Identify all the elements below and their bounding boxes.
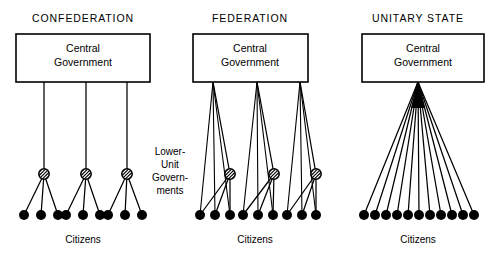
unit-to-citizen-edge-1-2 — [86, 174, 100, 215]
lower-unit-node-hatching — [218, 169, 242, 179]
central-government-label-line1-unitary-state: Central — [406, 42, 440, 54]
central-to-citizen-edge-0-0 — [200, 82, 213, 215]
lower-unit-governments-label-line2: Unit — [161, 159, 179, 170]
citizen-dot-unitary-state-3 — [392, 210, 402, 220]
citizen-dot-confederation-7 — [120, 210, 130, 220]
central-to-citizen-edge-1-0 — [243, 82, 257, 215]
lower-unit-node-federation-1 — [262, 169, 286, 179]
central-to-citizen-edge-2-2 — [300, 82, 316, 215]
citizen-dot-federation-1 — [210, 210, 220, 220]
panel-heading-confederation: CONFEDERATION — [32, 12, 134, 24]
central-government-label-line2-unitary-state: Government — [394, 56, 452, 68]
citizen-dot-confederation-0 — [19, 210, 29, 220]
lower-unit-governments-label-line3: Govern- — [152, 172, 188, 183]
citizen-dot-unitary-state-2 — [381, 210, 391, 220]
central-to-citizen-edge-1-1 — [257, 82, 258, 215]
citizen-dot-federation-4 — [253, 210, 263, 220]
central-government-label-line2-confederation: Government — [54, 56, 112, 68]
lower-unit-node-hatching — [262, 169, 286, 179]
citizen-dot-unitary-state-8 — [447, 210, 457, 220]
citizen-dot-federation-0 — [195, 210, 205, 220]
citizen-dot-unitary-state-10 — [469, 210, 479, 220]
lower-unit-node-hatching — [304, 169, 328, 179]
lower-unit-node-hatching — [74, 169, 98, 179]
unit-to-citizen-edge-1-2 — [273, 174, 274, 215]
citizen-dot-confederation-4 — [78, 210, 88, 220]
unit-to-citizen-edge-2-2 — [127, 174, 142, 215]
unit-to-citizen-edge-2-0 — [108, 174, 127, 215]
citizen-dot-confederation-1 — [36, 210, 46, 220]
central-to-citizen-edge-1-2 — [257, 82, 273, 215]
unit-to-citizen-edge-1-1 — [258, 174, 274, 215]
citizen-dot-federation-6 — [282, 210, 292, 220]
central-government-label-line1-confederation: Central — [66, 42, 100, 54]
unit-to-citizen-edge-2-1 — [125, 174, 127, 215]
citizen-dot-federation-5 — [268, 210, 278, 220]
panel-heading-unitary-state: UNITARY STATE — [372, 12, 464, 24]
central-government-label-line2-federation: Government — [221, 56, 279, 68]
lower-unit-node-confederation-2 — [115, 169, 139, 179]
unit-to-citizen-edge-0-2 — [44, 174, 58, 215]
citizen-dot-unitary-state-9 — [458, 210, 468, 220]
central-government-label-line1-federation: Central — [233, 42, 267, 54]
lower-unit-governments-label-line4: ments — [156, 185, 183, 196]
lower-unit-node-federation-2 — [304, 169, 328, 179]
citizen-dot-unitary-state-1 — [370, 210, 380, 220]
citizen-dot-unitary-state-0 — [359, 210, 369, 220]
lower-unit-node-confederation-0 — [32, 169, 56, 179]
citizens-label-federation: Citizens — [237, 234, 273, 245]
central-to-citizen-edge-0-2 — [213, 82, 230, 215]
lower-unit-node-federation-0 — [218, 169, 242, 179]
citizen-dot-confederation-3 — [61, 210, 71, 220]
central-to-unit-edge-2 — [300, 82, 316, 174]
citizen-dot-federation-7 — [297, 210, 307, 220]
government-forms-diagram: CONFEDERATIONCentralGovernmentCitizensFE… — [0, 0, 502, 254]
edges-layer — [24, 82, 474, 215]
lower-unit-node-confederation-1 — [74, 169, 98, 179]
lower-unit-node-hatching — [115, 169, 139, 179]
lower-unit-governments-label-line1: Lower- — [155, 146, 186, 157]
central-to-citizen-edge-9 — [418, 82, 463, 215]
citizen-dot-unitary-state-6 — [425, 210, 435, 220]
central-to-citizen-edge-1 — [375, 82, 418, 215]
lower-unit-node-hatching — [32, 169, 56, 179]
citizen-dot-unitary-state-4 — [403, 210, 413, 220]
central-to-citizen-edge-10 — [418, 82, 474, 215]
citizen-dot-federation-2 — [225, 210, 235, 220]
central-to-unit-edge-0 — [213, 82, 230, 174]
citizen-dot-confederation-6 — [103, 210, 113, 220]
citizen-dot-unitary-state-5 — [414, 210, 424, 220]
citizens-label-unitary-state: Citizens — [400, 234, 436, 245]
citizen-dot-confederation-8 — [137, 210, 147, 220]
diagram-canvas: CONFEDERATIONCentralGovernmentCitizensFE… — [0, 0, 502, 254]
central-to-unit-edge-1 — [257, 82, 274, 174]
citizen-dots-layer — [19, 210, 479, 220]
central-to-citizen-edge-2-0 — [287, 82, 300, 215]
citizen-dot-federation-8 — [311, 210, 321, 220]
citizens-label-confederation: Citizens — [65, 234, 101, 245]
panel-heading-federation: FEDERATION — [212, 12, 288, 24]
citizen-dot-unitary-state-7 — [436, 210, 446, 220]
citizen-dot-federation-3 — [238, 210, 248, 220]
